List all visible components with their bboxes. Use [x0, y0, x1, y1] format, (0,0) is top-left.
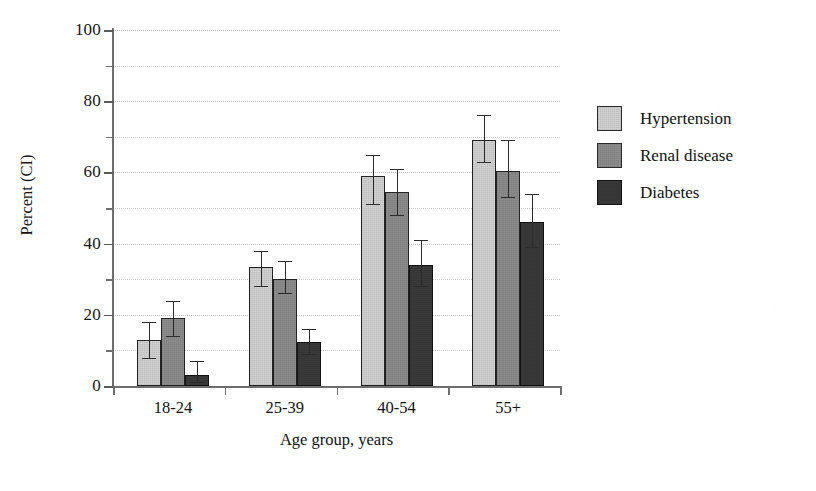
- y-axis-title-text: Percent (CI): [17, 138, 37, 253]
- error-bar-cap-lower: [366, 204, 380, 205]
- gridline: [113, 101, 560, 102]
- error-bar-stem: [285, 261, 286, 293]
- error-bar-cap-upper: [190, 361, 204, 362]
- x-tick-label-25-39: 25-39: [266, 398, 305, 418]
- error-bar-cap-lower: [390, 215, 404, 216]
- error-bar-cap-upper: [501, 140, 515, 141]
- medium-gray-swatch: [597, 143, 622, 168]
- gridline: [113, 30, 560, 31]
- legend-item-diabetes: Diabetes: [597, 174, 807, 211]
- y-axis-minor-tick: [106, 137, 114, 139]
- error-bar-cap-lower: [278, 293, 292, 294]
- x-tick-label-18-24: 18-24: [154, 398, 193, 418]
- y-axis-major-tick: [104, 315, 114, 317]
- bar-hypertension-40-54: [361, 176, 385, 386]
- error-bar-cap-lower: [190, 382, 204, 383]
- error-bar-stem: [532, 194, 533, 247]
- y-axis-minor-tick: [106, 66, 114, 68]
- error-bar-stem: [261, 251, 262, 287]
- legend-item-label: Renal disease: [640, 146, 733, 166]
- error-bar-cap-lower: [142, 358, 156, 359]
- legend-item-label: Hypertension: [640, 109, 732, 129]
- error-bar-cap-lower: [302, 354, 316, 355]
- error-bar-cap-lower: [525, 247, 539, 248]
- y-tick-label: 80: [84, 91, 101, 111]
- bar-renal-disease-25-39: [273, 279, 297, 386]
- y-tick-label: 20: [84, 305, 101, 325]
- y-axis-minor-tick: [106, 350, 114, 352]
- x-axis-tick: [113, 386, 115, 395]
- legend-item-hypertension: Hypertension: [597, 100, 807, 137]
- error-bar-cap-lower: [254, 286, 268, 287]
- x-axis-tick: [337, 386, 339, 395]
- error-bar-stem: [508, 140, 509, 197]
- y-axis-minor-tick: [106, 279, 114, 281]
- error-bar-cap-upper: [278, 261, 292, 262]
- error-bar-stem: [421, 240, 422, 286]
- y-tick-label: 60: [84, 162, 101, 182]
- plot-area: 100806040200: [113, 30, 560, 386]
- dark-gray-swatch: [597, 180, 622, 205]
- error-bar-stem: [373, 155, 374, 205]
- error-bar-cap-upper: [302, 329, 316, 330]
- bar-hypertension-55+: [472, 140, 496, 386]
- error-bar-cap-lower: [166, 336, 180, 337]
- error-bar-stem: [173, 301, 174, 337]
- x-axis-tick: [560, 386, 562, 395]
- error-bar-stem: [197, 361, 198, 382]
- y-tick-label: 40: [84, 234, 101, 254]
- y-tick-label: 100: [75, 20, 101, 40]
- error-bar-cap-upper: [142, 322, 156, 323]
- gridline: [113, 137, 560, 138]
- error-bar-stem: [309, 329, 310, 354]
- error-bar-cap-upper: [390, 169, 404, 170]
- x-tick-label-40-54: 40-54: [377, 398, 416, 418]
- bar-renal-disease-40-54: [385, 192, 409, 386]
- legend: HypertensionRenal diseaseDiabetes: [597, 100, 807, 211]
- error-bar-cap-upper: [414, 240, 428, 241]
- error-bar-cap-lower: [477, 162, 491, 163]
- error-bar-stem: [484, 115, 485, 161]
- bar-renal-disease-55+: [496, 171, 520, 386]
- bar-chart-figure: Percent (CI) 100806040200 18-2425-3940-5…: [0, 0, 816, 491]
- legend-item-label: Diabetes: [640, 183, 699, 203]
- gridline: [113, 66, 560, 67]
- error-bar-cap-upper: [366, 155, 380, 156]
- error-bar-stem: [149, 322, 150, 358]
- error-bar-cap-upper: [477, 115, 491, 116]
- x-tick-label-55+: 55+: [495, 398, 521, 418]
- light-gray-swatch: [597, 106, 622, 131]
- x-axis-tick: [448, 386, 450, 395]
- error-bar-cap-upper: [254, 251, 268, 252]
- error-bar-cap-lower: [414, 286, 428, 287]
- x-axis-title: Age group, years: [113, 430, 560, 450]
- x-axis-tick: [225, 386, 227, 395]
- y-axis-minor-tick: [106, 208, 114, 210]
- error-bar-cap-lower: [501, 197, 515, 198]
- y-axis-major-tick: [104, 101, 114, 103]
- error-bar-cap-upper: [525, 194, 539, 195]
- y-axis-major-tick: [104, 172, 114, 174]
- legend-item-renal-disease: Renal disease: [597, 137, 807, 174]
- y-axis-major-tick: [104, 30, 114, 32]
- error-bar-stem: [397, 169, 398, 215]
- y-tick-label: 0: [92, 376, 101, 396]
- y-axis-major-tick: [104, 244, 114, 246]
- error-bar-cap-upper: [166, 301, 180, 302]
